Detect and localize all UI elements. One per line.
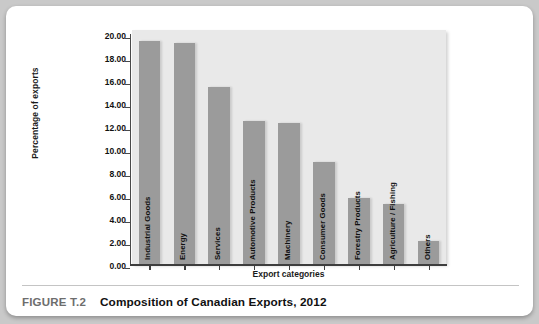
x-axis-tick bbox=[149, 265, 150, 270]
x-axis-tick bbox=[289, 265, 290, 270]
bar: Energy bbox=[174, 43, 196, 264]
x-axis-tick bbox=[324, 265, 325, 270]
bar-label: Industrial Goods bbox=[143, 196, 152, 260]
bar-chart: Percentage of exports 0.002.004.006.008.… bbox=[6, 6, 533, 278]
y-axis-tick-label: 8.00 bbox=[90, 169, 126, 179]
bar: Automotive Products bbox=[243, 121, 265, 264]
y-axis-tick bbox=[125, 130, 130, 131]
y-axis-tick-label: 18.00 bbox=[90, 54, 126, 64]
bars-layer: Industrial GoodsEnergyServicesAutomotive… bbox=[132, 30, 446, 264]
y-axis-tick-labels: 0.002.004.006.008.0010.0012.0014.0016.00… bbox=[90, 28, 126, 272]
y-axis-tick-label: 20.00 bbox=[90, 31, 126, 41]
bar: Machinery bbox=[278, 123, 300, 264]
bar-label: Consumer Goods bbox=[318, 193, 327, 260]
y-axis-title: Percentage of exports bbox=[30, 28, 40, 198]
x-axis-tick bbox=[429, 265, 430, 270]
bar: Consumer Goods bbox=[313, 162, 335, 264]
y-axis-tick bbox=[125, 199, 130, 200]
bar-label: Energy bbox=[178, 233, 187, 260]
figure-number: FIGURE T.2 bbox=[22, 296, 86, 308]
figure-card: Percentage of exports 0.002.004.006.008.… bbox=[6, 6, 533, 316]
x-axis-tick bbox=[254, 265, 255, 270]
y-axis-tick-label: 2.00 bbox=[90, 238, 126, 248]
y-axis-tick bbox=[125, 84, 130, 85]
bar-label: Forestry Products bbox=[353, 191, 362, 260]
bar-label: Automotive Products bbox=[248, 179, 257, 260]
bar: Forestry Products bbox=[348, 198, 370, 264]
bar-label: Agriculture / Fishing bbox=[388, 182, 397, 260]
y-axis-tick-label: 0.00 bbox=[90, 261, 126, 271]
y-axis-tick-label: 14.00 bbox=[90, 100, 126, 110]
y-axis-tick bbox=[125, 61, 130, 62]
x-axis-tick bbox=[394, 265, 395, 270]
y-axis-tick-label: 16.00 bbox=[90, 77, 126, 87]
y-axis-tick bbox=[125, 176, 130, 177]
y-axis-tick-label: 6.00 bbox=[90, 192, 126, 202]
y-axis-tick-label: 10.00 bbox=[90, 146, 126, 156]
y-axis-tick-label: 12.00 bbox=[90, 123, 126, 133]
bar-label: Services bbox=[213, 227, 222, 260]
bar: Services bbox=[208, 87, 230, 264]
y-axis-tick bbox=[125, 107, 130, 108]
x-axis-tick bbox=[359, 265, 360, 270]
bar-label: Machinery bbox=[283, 221, 292, 260]
y-axis-tick bbox=[125, 153, 130, 154]
y-axis-tick-label: 4.00 bbox=[90, 215, 126, 225]
y-axis-tick bbox=[125, 268, 130, 269]
figure-caption: FIGURE T.2 Composition of Canadian Expor… bbox=[6, 287, 533, 316]
x-axis-title: Export categories bbox=[130, 269, 447, 279]
x-axis-tick bbox=[184, 265, 185, 270]
y-axis-tick bbox=[125, 245, 130, 246]
bar: Agriculture / Fishing bbox=[383, 204, 405, 264]
y-axis-tick bbox=[125, 222, 130, 223]
bar: Others bbox=[418, 241, 440, 264]
bar-label: Others bbox=[423, 234, 432, 260]
x-axis-tick bbox=[219, 265, 220, 270]
bar: Industrial Goods bbox=[139, 41, 161, 264]
figure-title: Composition of Canadian Exports, 2012 bbox=[100, 295, 327, 309]
y-axis-tick bbox=[125, 38, 130, 39]
